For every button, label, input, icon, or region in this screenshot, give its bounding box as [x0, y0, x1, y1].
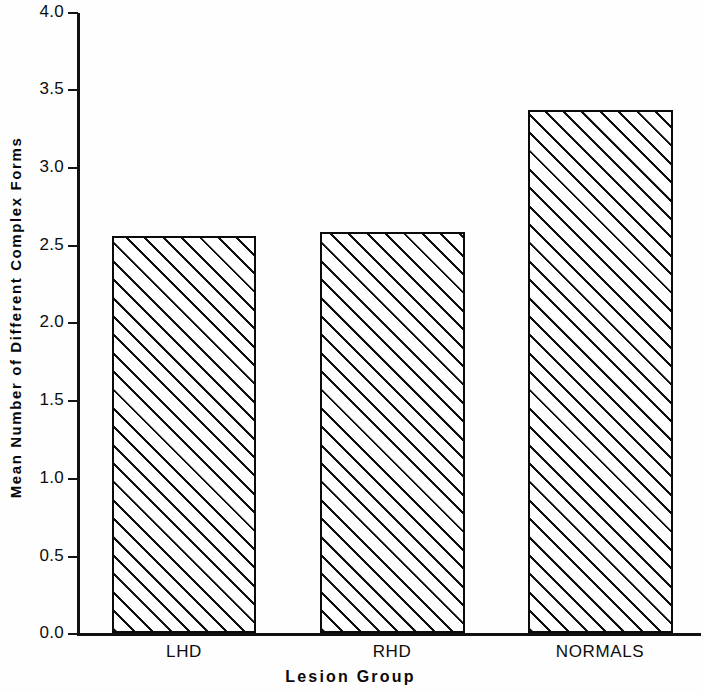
y-axis-line — [77, 13, 80, 635]
plot-area: Mean Number of Different Complex Forms 0… — [0, 0, 701, 692]
bar-lhd[interactable] — [112, 236, 256, 633]
bar-normals[interactable] — [528, 110, 673, 633]
y-tick-label-2: 1.0 — [8, 469, 64, 486]
x-axis-line — [77, 633, 701, 636]
y-tick-label-5: 2.5 — [8, 236, 64, 253]
y-tick-1 — [68, 556, 78, 558]
y-tick-label-0: 0.0 — [8, 624, 64, 641]
x-axis-title: Lesion Group — [0, 668, 701, 686]
chart-figure: Mean Number of Different Complex Forms 0… — [0, 0, 701, 692]
x-tick-label-normals: NORMALS — [556, 642, 644, 662]
y-tick-0 — [68, 633, 78, 635]
y-tick-8 — [68, 12, 78, 14]
y-tick-label-4: 2.0 — [8, 313, 64, 330]
y-tick-label-7: 3.5 — [8, 80, 64, 97]
bar-rhd[interactable] — [320, 232, 465, 633]
y-tick-3 — [68, 400, 78, 402]
y-tick-label-6: 3.0 — [8, 158, 64, 175]
y-tick-label-8: 4.0 — [8, 3, 64, 20]
x-tick-label-lhd: LHD — [166, 642, 202, 662]
y-tick-label-3: 1.5 — [8, 391, 64, 408]
y-tick-label-1: 0.5 — [8, 547, 64, 564]
y-tick-2 — [68, 478, 78, 480]
y-tick-6 — [68, 167, 78, 169]
y-tick-7 — [68, 89, 78, 91]
y-tick-4 — [68, 322, 78, 324]
x-tick-label-rhd: RHD — [373, 642, 412, 662]
y-tick-5 — [68, 245, 78, 247]
